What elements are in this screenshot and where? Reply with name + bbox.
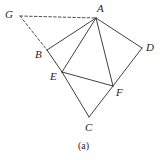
vertex-label-c: C [85, 122, 92, 133]
figure-panel: GABDEFC (a) [0, 0, 165, 160]
edge-f-c [89, 86, 113, 117]
vertex-label-b: B [35, 49, 42, 60]
edge-b-e [47, 50, 62, 72]
vertex-label-f: F [116, 87, 123, 98]
edge-layer [20, 16, 142, 117]
vertex-label-e: E [50, 71, 57, 82]
vertex-label-a: A [97, 3, 104, 14]
edge-g-a [20, 16, 96, 18]
edge-g-b [20, 16, 47, 50]
geometry-diagram [0, 0, 165, 160]
edge-a-f [96, 18, 113, 86]
figure-caption: (a) [78, 141, 89, 151]
edge-a-b [47, 18, 96, 50]
vertex-label-g: G [5, 9, 13, 20]
edge-a-d [96, 18, 142, 48]
vertex-label-d: D [146, 42, 154, 53]
edge-a-e [62, 18, 96, 72]
edge-d-f [113, 48, 142, 86]
